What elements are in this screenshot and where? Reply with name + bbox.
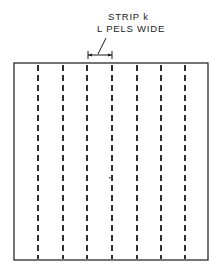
- strip-diagram: STRIP k L PELS WIDE: [0, 0, 221, 274]
- leader-line: [98, 38, 106, 54]
- scan-mark: [109, 177, 111, 179]
- strip-label-line2: L PELS WIDE: [97, 23, 165, 34]
- image-frame: [14, 63, 208, 260]
- strip-label-line1: STRIP k: [108, 11, 149, 22]
- width-dimension-arrow: [88, 51, 112, 59]
- strip-boundaries: [38, 65, 185, 259]
